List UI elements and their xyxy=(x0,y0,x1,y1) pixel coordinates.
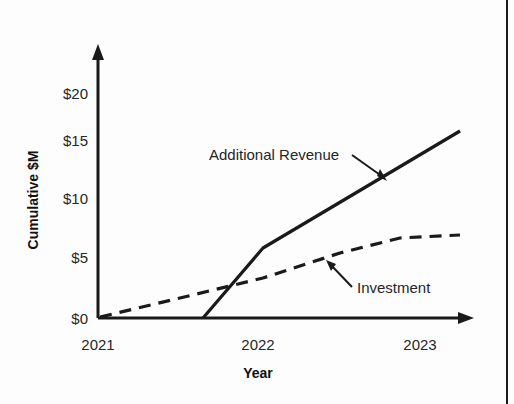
x-tick-label-2021: 2021 xyxy=(81,336,114,353)
x-axis-arrow-icon xyxy=(458,312,474,324)
x-axis-title: Year xyxy=(243,365,273,381)
chart-container: $20 $15 $10 $5 $0 Cumulative $M 2021 202… xyxy=(0,0,514,404)
x-tick-label-2023: 2023 xyxy=(403,336,436,353)
y-tick-label-10: $10 xyxy=(63,190,88,207)
line-chart: $20 $15 $10 $5 $0 Cumulative $M 2021 202… xyxy=(0,0,514,404)
series-annotation-investment: Investment xyxy=(357,279,431,296)
series-annotation-additional-revenue: Additional Revenue xyxy=(209,146,339,163)
y-tick-label-15: $15 xyxy=(63,132,88,149)
x-tick-label-2022: 2022 xyxy=(241,336,274,353)
y-axis-arrow-icon xyxy=(92,44,104,60)
y-tick-label-5: $5 xyxy=(71,249,88,266)
y-axis-title: Cumulative $M xyxy=(25,151,41,250)
page-right-border xyxy=(506,0,508,404)
series-line-investment xyxy=(100,235,460,317)
y-tick-label-0: $0 xyxy=(71,310,88,327)
y-tick-label-20: $20 xyxy=(63,85,88,102)
